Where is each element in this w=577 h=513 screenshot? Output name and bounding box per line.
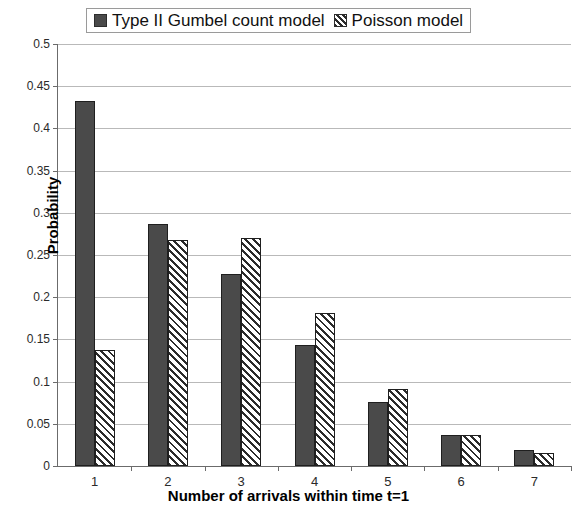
bar	[534, 453, 554, 467]
bar	[95, 350, 115, 466]
bar-chart: Type II Gumbel count modelPoisson model …	[0, 0, 577, 513]
y-axis-tick	[53, 297, 58, 298]
bar	[295, 345, 315, 466]
gridline	[58, 297, 571, 298]
gridline	[58, 171, 571, 172]
y-axis-tick-label: 0	[43, 460, 50, 472]
y-axis-tick-label: 0.05	[27, 418, 50, 430]
gridline	[58, 44, 571, 45]
chart-legend: Type II Gumbel count modelPoisson model	[86, 8, 471, 33]
gridline	[58, 213, 571, 214]
y-axis-tick-label: 0.1	[33, 376, 50, 388]
bar	[148, 224, 168, 466]
bar	[441, 435, 461, 466]
y-axis-title: Probability	[44, 156, 61, 276]
x-axis-tick	[424, 466, 425, 471]
y-axis-tick	[53, 128, 58, 129]
y-axis-tick	[53, 339, 58, 340]
x-axis-tick	[498, 466, 499, 471]
x-axis-tick	[278, 466, 279, 471]
gridline	[58, 86, 571, 87]
y-axis-tick	[53, 466, 58, 467]
x-axis-tick	[131, 466, 132, 471]
bar	[315, 313, 335, 466]
x-axis-title: Number of arrivals within time t=1	[0, 487, 577, 504]
y-axis-tick-label: 0.4	[33, 122, 50, 134]
x-axis-tick	[351, 466, 352, 471]
y-axis-tick-label: 0.5	[33, 38, 50, 50]
bar	[75, 101, 95, 466]
bar	[461, 435, 481, 466]
legend-entry: Type II Gumbel count model	[94, 9, 325, 32]
bar	[241, 238, 261, 466]
x-axis-tick	[571, 466, 572, 471]
x-axis-tick	[205, 466, 206, 471]
y-axis-tick	[53, 86, 58, 87]
bar	[221, 274, 241, 466]
legend-label: Type II Gumbel count model	[112, 12, 325, 29]
bar	[168, 240, 188, 466]
y-axis-tick-label: 0.15	[27, 333, 50, 345]
y-axis-tick	[53, 44, 58, 45]
plot-area: 00.050.10.150.20.250.30.350.40.450.51234…	[57, 44, 571, 467]
hatched-square-icon	[334, 14, 347, 27]
solid-square-icon	[94, 14, 107, 27]
y-axis-tick-label: 0.45	[27, 80, 50, 92]
legend-label: Poisson model	[352, 12, 464, 29]
bar	[514, 450, 534, 466]
y-axis-tick	[53, 382, 58, 383]
gridline	[58, 255, 571, 256]
gridline	[58, 128, 571, 129]
legend-entry: Poisson model	[334, 9, 464, 32]
y-axis-tick	[53, 424, 58, 425]
bar	[368, 402, 388, 466]
y-axis-tick-label: 0.2	[33, 291, 50, 303]
bar	[388, 389, 408, 466]
